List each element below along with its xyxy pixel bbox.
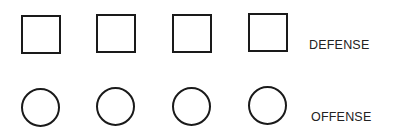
offense-player-circle-icon bbox=[248, 86, 287, 125]
defense-player-square-icon bbox=[248, 13, 288, 52]
offense-player-circle-icon bbox=[172, 87, 211, 126]
defense-player-square-icon bbox=[21, 15, 61, 54]
defense-player-square-icon bbox=[96, 14, 136, 53]
defense-player-square-icon bbox=[172, 14, 212, 53]
offense-player-circle-icon bbox=[96, 87, 135, 126]
offense-player-circle-icon bbox=[21, 88, 60, 127]
offense-label: OFFENSE bbox=[311, 110, 371, 124]
defense-label: DEFENSE bbox=[309, 38, 369, 52]
